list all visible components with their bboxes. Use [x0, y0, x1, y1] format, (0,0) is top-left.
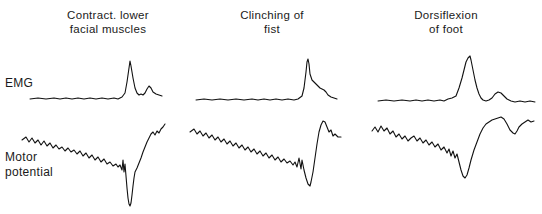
trace-motor-clinching-fist [190, 121, 341, 186]
trace-emg-dorsiflexion-foot [378, 56, 535, 102]
trace-emg-facial-muscles [30, 61, 162, 99]
emg-motor-potential-figure: Contract. lower facial muscles Clinching… [0, 0, 542, 214]
trace-canvas [0, 0, 542, 214]
trace-motor-facial-muscles [22, 124, 165, 206]
trace-motor-dorsiflexion-foot [372, 117, 534, 178]
trace-emg-clinching-fist [196, 59, 337, 100]
